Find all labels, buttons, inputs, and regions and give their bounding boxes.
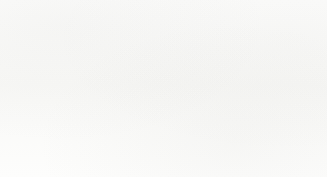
destination-item-register: register [227, 112, 296, 124]
operation-group: LoaD STore [6, 57, 57, 97]
functional-unit-item-floating-point: Floating−point [140, 111, 208, 123]
data-size-item-word: word [145, 49, 204, 61]
operation-item-load: LoaD [18, 65, 45, 77]
close-brace-data-size [207, 4, 218, 94]
open-brace-signedness [66, 22, 75, 64]
address-space-items: normal Alternate [227, 31, 274, 54]
destination-items: register Status Register Queue [224, 112, 299, 149]
close-brace-destination [299, 97, 309, 163]
operation-items: LoaD STore [15, 65, 48, 89]
open-brace-functional-unit [128, 101, 137, 145]
data-size-group: Byte Halfword word Double word [131, 4, 218, 94]
functional-unit-items: Floating−point Coprocessor [137, 111, 211, 135]
destination-item-queue: Queue [227, 136, 296, 148]
precision-items: single Double [74, 111, 113, 135]
data-size-item-halfword: Halfword [145, 37, 204, 49]
signedness-item-signed: Signed [78, 31, 121, 43]
open-brace-data-size [131, 4, 142, 94]
address-space-item-normal: normal [230, 31, 271, 43]
close-brace-precision [113, 102, 122, 144]
data-size-item-byte: Byte [145, 25, 204, 37]
operation-item-store: STore [18, 77, 45, 89]
destination-group: register Status Register Queue [214, 97, 309, 163]
functional-unit-group: Floating−point Coprocessor [128, 101, 220, 145]
close-brace-operation [48, 57, 57, 97]
data-size-item-double-word: Double word [145, 61, 204, 73]
functional-unit-item-coprocessor: Coprocessor [140, 123, 208, 135]
syntax-diagram-figure: LoaD STore Signed Unsigned [0, 0, 327, 177]
signedness-items: Signed Unsigned [75, 31, 124, 55]
precision-item-single: single [77, 111, 110, 123]
address-space-item-alternate: Alternate [230, 43, 271, 55]
close-brace-address-space [274, 24, 283, 62]
open-brace-address-space [218, 24, 227, 62]
open-brace-precision [65, 102, 74, 144]
precision-group: single Double [65, 102, 122, 144]
open-brace-destination [214, 97, 224, 163]
signedness-item-unsigned: Unsigned [78, 43, 121, 55]
signedness-group: Signed Unsigned [66, 22, 133, 64]
precision-item-double: Double [77, 123, 110, 135]
open-brace-operation [6, 57, 15, 97]
address-space-group: normal Alternate [218, 24, 283, 62]
data-size-items: Byte Halfword word Double word [142, 25, 207, 74]
destination-item-status-register: Status Register [227, 124, 296, 136]
